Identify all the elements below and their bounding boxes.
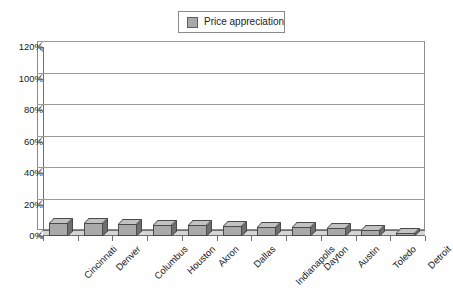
bar-dallas[interactable] [223,226,242,236]
x-label-toledo: Toledo [391,244,418,271]
gridline-120% [37,41,425,42]
bar-indianapolis[interactable] [257,227,276,236]
y-tick-mark [38,110,43,111]
y-tick-mark [38,79,43,80]
bar-front-face [49,223,68,236]
x-tick-mark [425,236,426,241]
x-tick-mark [78,236,79,241]
bar-front-face [327,228,346,236]
y-tick-mark [38,173,43,174]
x-tick-mark [182,236,183,241]
bar-columbus[interactable] [118,224,137,236]
bar-cincinnati[interactable] [49,223,68,236]
x-label-denver: Denver [114,244,142,272]
y-tick-mark [38,47,43,48]
gridline-60% [37,136,425,137]
series-swatch-icon [187,17,198,28]
bar-toledo[interactable] [361,230,380,236]
bar-dayton[interactable] [292,227,311,236]
x-tick-mark [356,236,357,241]
bar-front-face [361,230,380,236]
x-label-dallas: Dallas [252,244,277,269]
bar-front-face [118,224,137,236]
x-label-houston: Houston [185,244,217,276]
x-label-cincinnati: Cincinnati [82,244,118,280]
legend-label-price-appreciation: Price appreciation [204,17,284,27]
bar-front-face [396,233,415,236]
x-tick-mark [43,236,44,241]
bar-detroit[interactable] [396,233,415,236]
x-tick-mark [251,236,252,241]
x-label-austin: Austin [356,244,381,269]
chart-legend: Price appreciation [178,11,285,33]
bar-akron[interactable] [188,225,207,236]
x-tick-mark [286,236,287,241]
x-tick-mark [321,236,322,241]
x-tick-mark [390,236,391,241]
x-label-columbus: Columbus [153,244,190,281]
gridline-40% [37,167,425,168]
bar-denver[interactable] [84,223,103,236]
x-label-detroit: Detroit [426,244,453,271]
x-tick-mark [112,236,113,241]
bar-front-face [153,225,172,236]
gridline-20% [37,199,425,200]
bar-front-face [223,226,242,236]
bar-front-face [257,227,276,236]
bar-front-face [188,225,207,236]
bar-front-face [84,223,103,236]
y-axis-line [43,47,44,236]
y-tick-mark [38,142,43,143]
bar-houston[interactable] [153,225,172,236]
x-tick-mark [217,236,218,241]
gridline-100% [37,73,425,74]
x-tick-mark [147,236,148,241]
bar-front-face [292,227,311,236]
bar-austin[interactable] [327,228,346,236]
x-label-akron: Akron [216,244,240,268]
y-tick-mark [38,205,43,206]
gridline-80% [37,104,425,105]
